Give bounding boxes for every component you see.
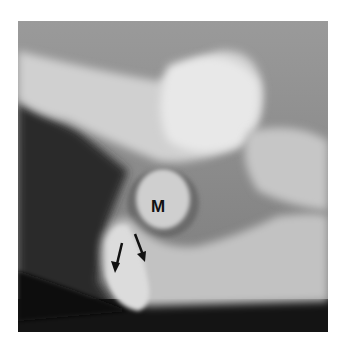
radiograph-image: M (18, 21, 328, 332)
radiograph-graphic (18, 21, 328, 332)
structure-label-m: M (151, 197, 165, 217)
